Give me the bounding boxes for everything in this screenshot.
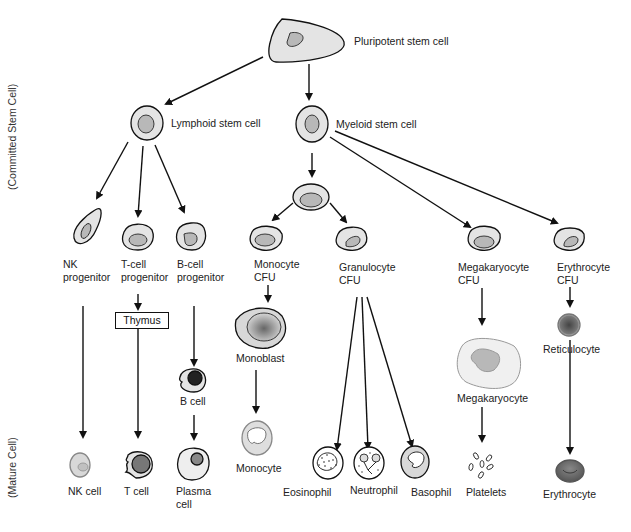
myeloid-intermediate-cell-icon	[293, 184, 329, 210]
nk-progenitor-icon	[74, 209, 101, 244]
monocyte-cfu-icon	[250, 226, 282, 250]
monoblast-icon	[235, 308, 285, 348]
lymphoid-stem-cell-label: Lymphoid stem cell	[171, 117, 260, 130]
monocyte-cfu-label: MonocyteCFU	[254, 258, 300, 284]
basophil-icon	[401, 446, 429, 478]
myeloid-stem-cell-icon	[296, 106, 328, 142]
b-cell-label: B cell	[180, 395, 206, 408]
erythrocyte-icon	[556, 460, 584, 482]
committed-stem-cell-label: (Committed Stem Cell)	[6, 84, 18, 190]
t-cell-icon	[126, 452, 152, 478]
myeloid-stem-cell-label: Myeloid stem cell	[336, 118, 417, 131]
b-cell-icon	[180, 369, 206, 392]
reticulocyte-icon	[558, 314, 580, 336]
erythrocyte-cfu-icon	[554, 228, 584, 250]
eosinophil-icon	[313, 447, 343, 479]
erythrocyte-cfu-label: ErythrocyteCFU	[557, 261, 610, 287]
thymus-box: Thymus	[115, 312, 169, 329]
nk-cell-label: NK cell	[68, 485, 101, 498]
megakaryocyte-cfu-icon	[468, 226, 500, 250]
cells	[70, 19, 584, 482]
t-cell-progenitor-icon	[123, 224, 154, 250]
reticulocyte-label: Reticulocyte	[543, 343, 600, 356]
plasma-cell-icon	[178, 448, 209, 480]
b-cell-progenitor-icon	[177, 223, 206, 250]
granulocyte-cfu-icon	[336, 227, 367, 250]
nk-cell-icon	[70, 453, 90, 477]
mature-cell-label: (Mature Cell)	[6, 437, 18, 498]
nk-progenitor-label: NKprogenitor	[63, 258, 110, 284]
monocyte-label: Monocyte	[236, 462, 282, 475]
plasma-cell-label: Plasmacell	[176, 485, 211, 511]
pluripotent-stem-cell-label: Pluripotent stem cell	[354, 35, 449, 48]
hematopoiesis-diagram: (Committed Stem Cell) (Mature Cell) Plur…	[0, 0, 631, 532]
granulocyte-cfu-label: GranulocyteCFU	[339, 261, 396, 287]
megakaryocyte-label: Megakaryocyte	[457, 392, 528, 405]
neutrophil-label: Neutrophil	[350, 484, 398, 497]
neutrophil-icon	[354, 447, 384, 479]
erythrocyte-label: Erythrocyte	[543, 488, 596, 501]
eosinophil-label: Eosinophil	[283, 486, 331, 499]
platelets-label: Platelets	[466, 486, 506, 499]
monocyte-icon	[242, 421, 272, 455]
t-cell-label: T cell	[124, 485, 149, 498]
pluripotent-stem-cell-icon	[269, 19, 344, 62]
lymphoid-stem-cell-icon	[131, 106, 163, 140]
monoblast-label: Monoblast	[236, 352, 284, 365]
megakaryocyte-cfu-label: MegakaryocyteCFU	[458, 261, 529, 287]
t-cell-progenitor-label: T-cellprogenitor	[121, 258, 168, 284]
basophil-label: Basophil	[411, 486, 451, 499]
b-cell-progenitor-label: B-cellprogenitor	[177, 258, 224, 284]
platelets-icon	[468, 452, 494, 479]
megakaryocyte-icon	[457, 338, 520, 388]
